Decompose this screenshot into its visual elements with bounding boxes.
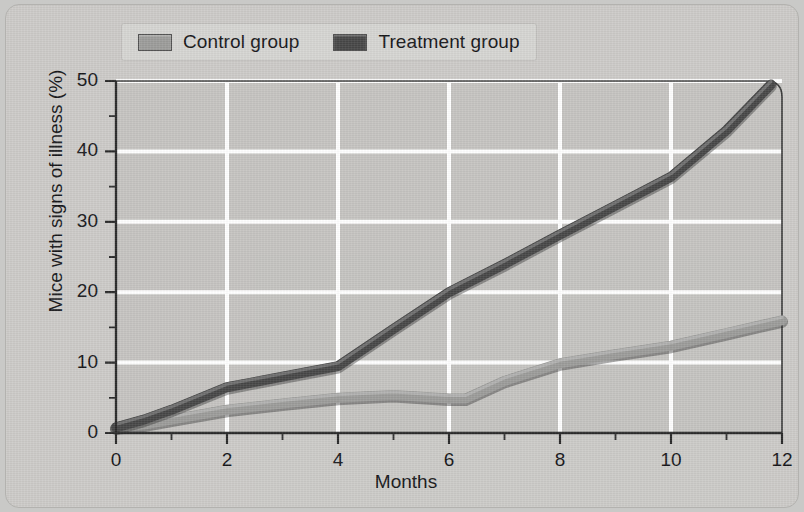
y-tick-label: 20 <box>58 280 98 302</box>
x-tick-label: 12 <box>762 449 799 471</box>
legend-label-control: Control group <box>183 31 299 53</box>
figure-panel: Control group Treatment group Mice with … <box>5 4 799 508</box>
x-axis-title: Months <box>306 471 506 493</box>
x-tick-label: 10 <box>651 449 691 471</box>
x-tick-label: 0 <box>96 449 136 471</box>
y-tick-label: 50 <box>58 69 98 91</box>
control-group-swatch <box>138 34 172 51</box>
y-axis-title: Mice with signs of illness (%) <box>45 4 67 391</box>
legend-item-treatment[interactable]: Treatment group <box>333 31 519 53</box>
y-tick-label: 0 <box>58 421 98 443</box>
x-tick-label: 6 <box>429 449 469 471</box>
x-tick-label: 2 <box>207 449 247 471</box>
chart-legend: Control group Treatment group <box>121 23 537 61</box>
line-chart-svg <box>6 5 799 508</box>
x-tick-label: 4 <box>318 449 358 471</box>
chart-screenshot: Control group Treatment group Mice with … <box>0 0 804 512</box>
y-tick-label: 40 <box>58 139 98 161</box>
treatment-group-swatch <box>333 34 367 51</box>
y-tick-label: 30 <box>58 210 98 232</box>
legend-label-treatment: Treatment group <box>378 31 519 53</box>
legend-item-control[interactable]: Control group <box>138 31 299 53</box>
plot-area <box>6 5 799 508</box>
x-tick-label: 8 <box>540 449 580 471</box>
y-tick-label: 10 <box>58 351 98 373</box>
